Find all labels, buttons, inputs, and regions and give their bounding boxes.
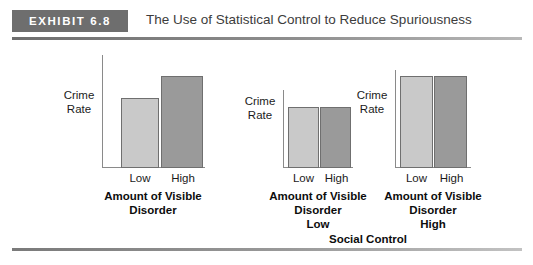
- y-axis-label-line1: Crime: [351, 88, 393, 102]
- x-axis-title-panel2: Amount of Visible Disorder Low: [253, 189, 383, 231]
- exhibit-header: EXHIBIT 6.8 The Use of Statistical Contr…: [0, 0, 533, 42]
- x-axis-title-line1: Amount of Visible: [253, 189, 383, 203]
- x-tick-panel1-low: Low: [118, 172, 162, 184]
- y-axis-label-panel2: Crime Rate: [239, 94, 281, 122]
- x-axis-title-panel1: Amount of Visible Disorder: [88, 189, 218, 217]
- y-axis-line-panel3: [395, 70, 396, 168]
- x-tick-panel3-high: High: [434, 172, 469, 184]
- x-tick-panel3-low: Low: [399, 172, 434, 184]
- bar-panel2-low: [288, 107, 319, 168]
- x-axis-title-line2: Disorder: [368, 203, 498, 217]
- bar-panel3-high: [434, 76, 467, 168]
- y-axis-line-panel1: [102, 55, 103, 168]
- x-tick-panel2-low: Low: [287, 172, 320, 184]
- exhibit-figure: EXHIBIT 6.8 The Use of Statistical Contr…: [0, 0, 533, 265]
- bar-panel1-high: [161, 76, 203, 168]
- y-axis-label-line2: Rate: [351, 102, 393, 116]
- exhibit-number-badge: EXHIBIT 6.8: [12, 10, 128, 32]
- exhibit-title: The Use of Statistical Control to Reduce…: [146, 12, 472, 27]
- x-tick-panel2-high: High: [320, 172, 353, 184]
- bar-panel3-low: [400, 76, 433, 168]
- x-axis-title-line2: Disorder: [253, 203, 383, 217]
- header-divider: [12, 37, 522, 40]
- x-axis-title-line1: Amount of Visible: [88, 189, 218, 203]
- y-axis-line-panel2: [283, 90, 284, 168]
- x-axis-title-line2: Disorder: [88, 203, 218, 217]
- x-tick-panel1-high: High: [161, 172, 205, 184]
- x-axis-title-line3: High: [368, 217, 498, 231]
- y-axis-label-line1: Crime: [58, 88, 100, 102]
- x-axis-title-line3: Low: [253, 217, 383, 231]
- y-axis-label-panel1: Crime Rate: [58, 88, 100, 116]
- x-axis-title-line1: Amount of Visible: [368, 189, 498, 203]
- bar-panel1-low: [121, 98, 159, 168]
- y-axis-label-line1: Crime: [239, 94, 281, 108]
- y-axis-label-line2: Rate: [58, 102, 100, 116]
- y-axis-label-line2: Rate: [239, 108, 281, 122]
- bar-panel2-high: [320, 107, 351, 168]
- y-axis-label-panel3: Crime Rate: [351, 88, 393, 116]
- footer-divider: [12, 248, 522, 251]
- grouping-label: Social Control: [303, 233, 433, 245]
- x-axis-title-panel3: Amount of Visible Disorder High: [368, 189, 498, 231]
